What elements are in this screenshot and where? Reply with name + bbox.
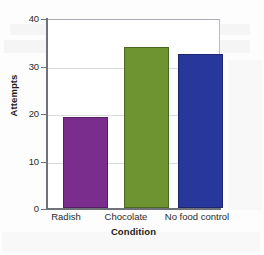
x-tick-label-no-food-control: No food control [155,212,239,222]
y-tick-mark-0 [41,209,47,210]
y-tick-label-40: 40 [1,14,39,24]
bar-chocolate[interactable] [124,47,169,208]
x-tick-label-chocolate: Chocolate [98,212,154,222]
y-tick-mark-20 [41,114,47,115]
x-axis-spine [46,208,221,210]
y-tick-label-10: 10 [1,157,39,167]
x-axis-title: Condition [47,226,220,237]
y-tick-mark-10 [41,162,47,163]
x-tick-label-radish: Radish [40,212,92,222]
scan-artifact [228,60,262,210]
bar-radish[interactable] [63,117,108,208]
plot-area [47,19,220,209]
bar-chart-figure: 40 30 20 10 0 Radish Chocolate No food c… [0,0,264,255]
y-tick-label-0: 0 [1,204,39,214]
y-tick-mark-40 [41,19,47,20]
y-tick-mark-30 [41,67,47,68]
bar-no-food-control[interactable] [178,54,223,208]
y-axis-title: Attempts [8,66,19,126]
